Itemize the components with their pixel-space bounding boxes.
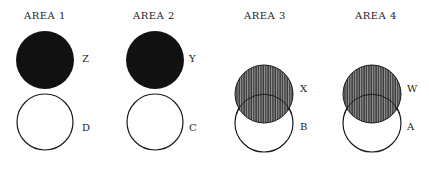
area-1-bottom-label: D (82, 122, 90, 133)
area-2-solid-circle (126, 31, 184, 89)
area-2-top-label: Y (188, 53, 196, 64)
venn-areas-diagram: AREA 1 Z D AREA 2 Y C AREA 3 X B AREA 4 … (0, 0, 429, 171)
area-1-solid-circle (16, 31, 74, 89)
area-3-top-label: X (300, 83, 308, 94)
area-3-bottom-label: B (300, 121, 307, 132)
area-1-outline-circle (17, 94, 73, 150)
area-3-title: AREA 3 (243, 10, 286, 21)
area-2-bottom-label: C (189, 122, 197, 133)
area-1-title: AREA 1 (23, 10, 66, 21)
area-4-title: AREA 4 (354, 10, 397, 21)
area-2-title: AREA 2 (132, 10, 175, 21)
area-3-group: AREA 3 X B (235, 10, 308, 152)
area-1-group: AREA 1 Z D (16, 10, 90, 150)
area-1-top-label: Z (82, 53, 89, 64)
area-4-top-label: W (407, 83, 418, 94)
area-4-group: AREA 4 W A (343, 10, 418, 152)
area-2-outline-circle (127, 94, 183, 150)
area-2-group: AREA 2 Y C (126, 10, 197, 150)
area-4-bottom-label: A (406, 121, 415, 132)
